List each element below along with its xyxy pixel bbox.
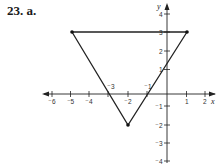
svg-text:⁻1: ⁻1 bbox=[155, 103, 163, 110]
x-tick-labels: ⁻6 ⁻5 ⁻4 ⁻3 ⁻2 ⁻1 1 2 x bbox=[48, 83, 215, 106]
triangle-shape bbox=[72, 32, 187, 125]
x-axis-right-arrow-icon bbox=[209, 92, 216, 97]
svg-text:4: 4 bbox=[159, 11, 163, 18]
svg-text:⁻6: ⁻6 bbox=[48, 98, 56, 105]
vertex-point-b bbox=[185, 30, 189, 34]
vertex-point-a bbox=[70, 30, 74, 34]
x-axis-left-arrow-icon bbox=[42, 92, 49, 97]
coordinate-graph: ⁻6 ⁻5 ⁻4 ⁻3 ⁻2 ⁻1 1 2 x y 4 3 2 1 ⁻1 ⁻2 … bbox=[0, 0, 221, 165]
svg-text:⁻2: ⁻2 bbox=[124, 98, 132, 105]
svg-text:⁻3: ⁻3 bbox=[107, 83, 115, 90]
y-tick-labels: y 4 3 2 1 ⁻1 ⁻2 ⁻3 ⁻4 bbox=[155, 2, 163, 165]
vertex-point-c bbox=[126, 123, 130, 127]
svg-text:⁻4: ⁻4 bbox=[85, 98, 93, 105]
svg-text:⁻5: ⁻5 bbox=[67, 98, 75, 105]
y-axis-up-arrow-icon bbox=[165, 3, 170, 10]
svg-text:1: 1 bbox=[185, 98, 189, 105]
svg-text:2: 2 bbox=[159, 48, 163, 55]
svg-text:⁻4: ⁻4 bbox=[155, 158, 163, 165]
svg-text:⁻3: ⁻3 bbox=[155, 140, 163, 147]
svg-text:⁻2: ⁻2 bbox=[155, 122, 163, 129]
svg-text:2: 2 bbox=[203, 98, 207, 105]
svg-text:x: x bbox=[210, 97, 215, 106]
